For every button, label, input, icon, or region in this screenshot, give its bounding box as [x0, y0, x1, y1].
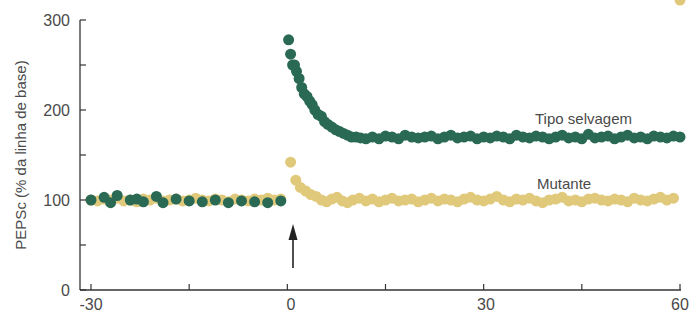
data-point [184, 195, 195, 206]
data-point [210, 195, 221, 206]
x-tick-label-0: 0 [287, 296, 296, 313]
stimulus-arrow-icon [289, 224, 298, 268]
data-point [138, 196, 149, 207]
data-point [112, 190, 123, 201]
data-point [171, 194, 182, 205]
y-tick-label-100: 100 [43, 192, 70, 209]
y-axis-title: PEPSc (% da linha de base) [12, 60, 29, 249]
data-point [675, 0, 686, 6]
data-point [675, 132, 686, 143]
y-tick-label-300: 300 [43, 12, 70, 29]
y-tick-label-200: 200 [43, 102, 70, 119]
data-point [223, 197, 234, 208]
x-ticks [91, 284, 680, 290]
data-point [249, 196, 260, 207]
y-ticks [80, 20, 86, 290]
data-point [236, 195, 247, 206]
data-point [285, 49, 296, 60]
x-tick-label-neg30: -30 [79, 296, 102, 313]
mutant-series [86, 0, 686, 208]
chart-svg: 0 100 200 300 -30 0 30 60 PEPSc (% da li… [0, 0, 695, 326]
y-tick-label-0: 0 [61, 282, 70, 299]
data-point [86, 195, 97, 206]
mutant-label: Mutante [537, 175, 591, 192]
data-point [668, 193, 679, 204]
data-point [197, 196, 208, 207]
data-point [158, 197, 169, 208]
x-tick-label-60: 60 [671, 296, 689, 313]
data-point [262, 197, 273, 208]
data-point [275, 195, 286, 206]
x-tick-label-30: 30 [477, 296, 495, 313]
data-point [285, 157, 296, 168]
data-point [283, 34, 294, 45]
wild-type-label: Tipo selvagem [535, 110, 632, 127]
